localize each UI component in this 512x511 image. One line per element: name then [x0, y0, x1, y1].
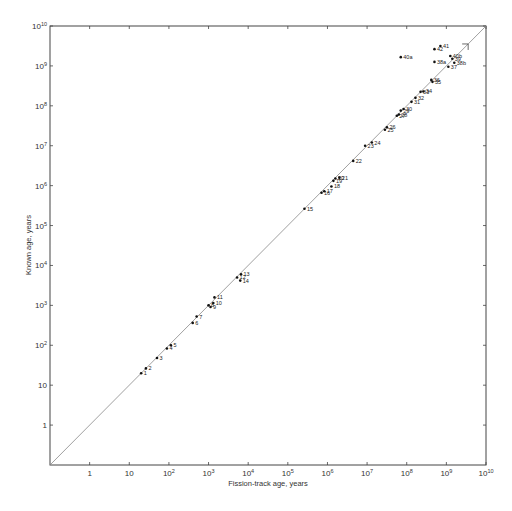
y-tick-label: 104	[35, 260, 47, 270]
x-tick-label: 107	[361, 468, 373, 478]
y-axis-title: Known age, years	[24, 215, 33, 275]
data-point: 15	[303, 206, 313, 212]
point-label: 40a	[403, 54, 413, 60]
point-label: 2	[148, 365, 151, 371]
point-label: 3	[160, 355, 163, 361]
data-points: 1234567891011121314151617181920212223242…	[140, 43, 466, 376]
x-tick-label: 102	[163, 468, 175, 478]
point-label: 21	[342, 175, 348, 181]
point-label: 10	[216, 300, 222, 306]
point-label: 32	[418, 95, 424, 101]
data-point: 6	[191, 320, 198, 326]
y-tick-label: 107	[35, 141, 47, 151]
point-label: 38a	[437, 59, 447, 65]
y-tick-label: 10	[38, 381, 47, 390]
point-label: 41	[443, 43, 449, 49]
point-label: 5	[173, 342, 176, 348]
data-point: 7	[195, 314, 202, 320]
y-tick-label: 106	[35, 181, 47, 191]
x-axis-title: Fission-track age, years	[228, 479, 308, 488]
y-tick-label: 1010	[32, 21, 47, 31]
point-label: 17	[327, 188, 333, 194]
data-point: 42	[433, 46, 443, 52]
y-tick-label: 105	[35, 221, 47, 231]
point-label: 18	[334, 183, 340, 189]
point-label: 22	[356, 158, 362, 164]
y-tick-label: 109	[35, 61, 47, 71]
data-point: 37	[447, 64, 457, 70]
x-tick-label: 105	[282, 468, 294, 478]
point-label: 36	[434, 77, 440, 83]
point-label: 11	[217, 294, 223, 300]
x-tick-label: 106	[321, 468, 333, 478]
point-label: 23	[368, 143, 374, 149]
x-tick-label: 10	[125, 469, 134, 478]
x-tick-label: 104	[242, 468, 254, 478]
point-label: 42	[437, 46, 443, 52]
x-tick-label: 103	[203, 468, 215, 478]
point-label: 30	[406, 106, 412, 112]
x-tick-label: 1	[87, 469, 92, 478]
point-label: 26	[389, 124, 395, 130]
point-label: 7	[199, 314, 202, 320]
data-point: 40b	[449, 53, 462, 59]
x-tick-label: 108	[401, 468, 413, 478]
point-label: 13	[244, 271, 250, 277]
point-label: 34	[426, 88, 432, 94]
y-tick-label: 1	[43, 421, 48, 430]
y-tick-label: 108	[35, 101, 47, 111]
data-point: 3	[156, 355, 163, 361]
point-label: 24	[374, 140, 380, 146]
x-tick-label: 109	[440, 468, 452, 478]
x-tick-label: 1010	[478, 468, 493, 478]
data-point: 38a	[433, 59, 447, 65]
data-point: 1	[140, 370, 147, 376]
point-label: 6	[195, 320, 198, 326]
data-point: 22	[352, 158, 362, 164]
data-point: 40a	[399, 54, 413, 60]
point-label: 14	[243, 278, 249, 284]
point-label: 15	[307, 206, 313, 212]
y-tick-label: 103	[35, 300, 47, 310]
scatter-chart: 1101021031041051061071081091010110102103…	[0, 0, 512, 511]
point-label: 1	[144, 370, 147, 376]
y-tick-label: 102	[35, 340, 47, 350]
point-label: 40b	[453, 53, 462, 59]
